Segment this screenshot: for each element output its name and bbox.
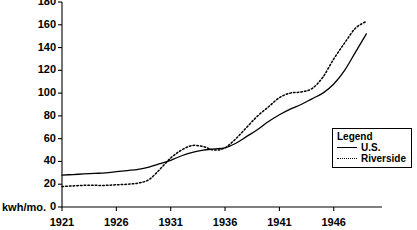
x-axis-tick-label-text: 1941 — [267, 216, 291, 228]
legend-entry-label: U.S. — [361, 142, 380, 153]
y-axis-tick-label-text: 40 — [20, 155, 56, 166]
x-axis-tick-label-text: 1936 — [213, 216, 237, 228]
y-axis-tick-label: 180 — [18, 0, 56, 7]
y-axis-tick-label-text: 120 — [20, 64, 56, 75]
y-axis-tick-label-text: 60 — [20, 133, 56, 144]
legend-title: Legend — [336, 131, 408, 142]
x-axis-tick-label-text: 1926 — [104, 216, 128, 228]
y-axis-tick-label-text: 160 — [20, 19, 56, 30]
x-axis-tick-label-text: 1921 — [50, 216, 74, 228]
solid-line-icon — [336, 143, 358, 152]
legend-entry: U.S. — [336, 142, 408, 153]
y-axis-tick-label: 20 — [18, 178, 56, 189]
x-axis-ticks — [62, 207, 334, 211]
y-axis-tick-label-text: 20 — [20, 178, 56, 189]
y-axis-tick-label: 80 — [18, 110, 56, 121]
legend-entry-label: Riverside — [361, 153, 406, 164]
y-axis-tick-label-text: 180 — [20, 0, 56, 7]
dotted-line-icon — [336, 154, 358, 163]
y-axis-tick-label: 120 — [18, 64, 56, 75]
chart-container: 020406080100120140160180 192119261931193… — [0, 0, 417, 230]
y-axis-tick-label: 40 — [18, 155, 56, 166]
legend-entry: Riverside — [336, 153, 408, 164]
x-axis-tick-label: 1931 — [148, 212, 194, 230]
x-axis-tick-label: 1926 — [93, 212, 139, 230]
x-axis-tick-label: 1946 — [311, 212, 357, 230]
y-axis-tick-label: 100 — [18, 87, 56, 98]
y-axis-tick-label: 160 — [18, 19, 56, 30]
x-axis-tick-label: 1941 — [256, 212, 302, 230]
legend-entries: U.S.Riverside — [336, 142, 408, 164]
x-axis-tick-label-text: 1931 — [158, 216, 182, 228]
x-axis-tick-label: 1921 — [39, 212, 85, 230]
data-series-group — [62, 21, 366, 186]
series-line-u-s — [62, 34, 366, 175]
series-line-riverside — [62, 21, 366, 186]
x-axis-tick-label: 1936 — [202, 212, 248, 230]
y-axis-tick-label: 140 — [18, 42, 56, 53]
y-axis-tick-label-text: 100 — [20, 87, 56, 98]
y-axis-tick-label-text: 80 — [20, 110, 56, 121]
y-axis-ticks — [58, 2, 62, 207]
y-axis-unit-label: kwh/mo. — [2, 201, 46, 213]
legend: Legend U.S.Riverside — [332, 128, 412, 168]
plot-area — [0, 0, 417, 230]
y-axis-tick-label-text: 140 — [20, 42, 56, 53]
axes-group — [62, 2, 382, 207]
y-axis-tick-label: 60 — [18, 133, 56, 144]
x-axis-tick-label-text: 1946 — [322, 216, 346, 228]
